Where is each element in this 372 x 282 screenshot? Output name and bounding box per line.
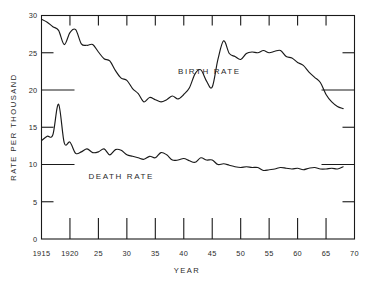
death-rate-line xyxy=(42,104,344,170)
y-tick-label-10: 10 xyxy=(29,160,38,169)
chart-svg: 051015202530 191519202530354045505560657… xyxy=(0,0,372,282)
y-tick-label-20: 20 xyxy=(29,86,38,95)
x-tick-label-1930: 30 xyxy=(122,249,131,258)
x-axis-tick-labels: 1915192025303540455055606570 xyxy=(33,249,359,258)
x-tick-label-1915: 1915 xyxy=(33,249,51,258)
x-tick-label-1970: 70 xyxy=(350,249,359,258)
y-tick-label-25: 25 xyxy=(29,49,38,58)
x-axis-ticks-top xyxy=(70,16,326,26)
x-tick-label-1960: 60 xyxy=(293,249,302,258)
y-axis-tick-labels: 051015202530 xyxy=(29,11,38,244)
x-tick-label-1940: 40 xyxy=(179,249,188,258)
y-axis-title: RATE PER THOUSAND xyxy=(9,73,18,181)
birth-rate-line xyxy=(42,19,344,108)
plot-frame xyxy=(42,16,355,240)
birth-and-death-rate-chart: 051015202530 191519202530354045505560657… xyxy=(0,0,372,282)
x-tick-label-1945: 45 xyxy=(208,249,217,258)
annotation-birth-rate: BIRTH RATE xyxy=(178,67,241,76)
y-tick-label-30: 30 xyxy=(29,11,38,20)
annotation-death-rate: DEATH RATE xyxy=(88,172,153,181)
x-axis-ticks-bottom xyxy=(70,218,326,239)
x-tick-label-1965: 65 xyxy=(322,249,331,258)
y-tick-label-0: 0 xyxy=(33,235,37,244)
y-tick-label-5: 5 xyxy=(33,198,37,207)
x-tick-label-1955: 55 xyxy=(265,249,274,258)
y-tick-label-15: 15 xyxy=(29,123,38,132)
series-annotations: BIRTH RATEDEATH RATE xyxy=(88,67,240,181)
x-axis-title: YEAR xyxy=(174,266,201,275)
x-tick-label-1950: 50 xyxy=(236,249,245,258)
x-tick-label-1925: 25 xyxy=(94,249,103,258)
x-tick-label-1920: 1920 xyxy=(61,249,79,258)
x-tick-label-1935: 35 xyxy=(151,249,160,258)
